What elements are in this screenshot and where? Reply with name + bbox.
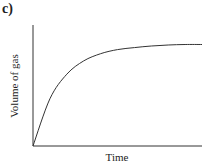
line-chart [0,0,212,167]
volume-curve [33,44,202,146]
x-axis-label: Time [106,151,129,163]
y-axis-label: Volume of gas [8,54,20,117]
